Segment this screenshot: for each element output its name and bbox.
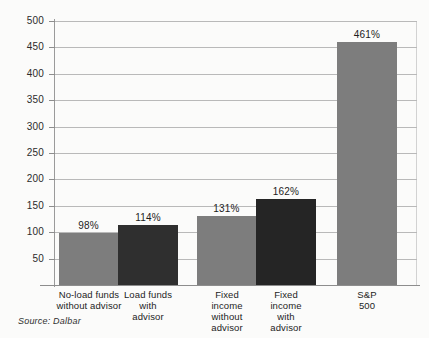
y-axis-tick-label: 450 [27, 42, 44, 52]
bar-series: 98%114%131%162%461% [55, 21, 417, 285]
category-label-line: income [255, 300, 317, 311]
y-axis-tick-label: 150 [27, 201, 44, 211]
category-label-line: Fixed [255, 289, 317, 300]
category-label-line: advisor [109, 311, 187, 322]
bar-value-label: 98% [59, 220, 118, 231]
y-axis-tick-label: 400 [27, 69, 44, 79]
bar [197, 216, 256, 285]
bar [256, 199, 316, 285]
category-label-line: with [109, 300, 187, 311]
y-axis-tick-labels: 50045040035030025020015010050 [0, 0, 44, 338]
category-label-line: Load funds [109, 289, 187, 300]
bar [337, 42, 397, 285]
category-label-line: income [196, 300, 258, 311]
category-label-line: Fixed [196, 289, 258, 300]
y-axis-tick-label: 500 [27, 16, 44, 26]
bar [59, 233, 118, 285]
category-label: Load fundswithadvisor [109, 289, 187, 322]
category-label: Fixedincomewithoutadvisor [196, 289, 258, 333]
y-axis-tick-label: 300 [27, 122, 44, 132]
bar-value-label: 461% [337, 29, 397, 40]
bar [118, 225, 178, 285]
category-label-line: S&P [336, 289, 398, 300]
x-axis-category-labels: No-load fundswithout advisorLoad fundswi… [0, 289, 429, 338]
category-label-line: without [196, 311, 258, 322]
y-axis-tick-label: 350 [27, 95, 44, 105]
category-label-line: advisor [255, 322, 317, 333]
bar-value-label: 114% [118, 212, 178, 223]
category-label-line: 500 [336, 300, 398, 311]
y-axis-tick-label: 250 [27, 148, 44, 158]
category-label: S&P500 [336, 289, 398, 311]
y-axis-tick-label: 50 [32, 254, 44, 264]
source-note: Source: Dalbar [18, 316, 81, 326]
category-label-line: with [255, 311, 317, 322]
x-axis-baseline [40, 285, 420, 286]
category-label: Fixedincomewithadvisor [255, 289, 317, 333]
category-label-line: advisor [196, 322, 258, 333]
bar-value-label: 131% [197, 203, 256, 214]
y-axis-tick-label: 200 [27, 174, 44, 184]
bar-value-label: 162% [256, 186, 316, 197]
chart-page: 50045040035030025020015010050 98%114%131… [0, 0, 429, 338]
y-axis-tick-label: 100 [27, 227, 44, 237]
